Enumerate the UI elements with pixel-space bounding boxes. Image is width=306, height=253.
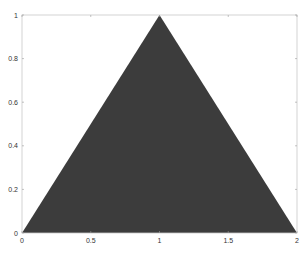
y-tick-label: 0.2 — [8, 186, 18, 193]
x-tick-label: 1.5 — [223, 237, 233, 244]
x-tick-label: 1 — [158, 237, 162, 244]
y-tick-label: 0.8 — [8, 55, 18, 62]
x-tick-label: 0.5 — [86, 237, 96, 244]
y-tick-label: 0.6 — [8, 99, 18, 106]
x-tick-label: 0 — [20, 237, 24, 244]
y-tick-label: 0 — [14, 230, 18, 237]
chart-canvas: 00.20.40.60.81 00.511.52 — [0, 0, 306, 253]
triangle-fill — [22, 15, 297, 233]
y-tick-label: 0.4 — [8, 142, 18, 149]
series-0-polygon — [22, 15, 297, 233]
y-tick-label: 1 — [14, 12, 18, 19]
x-tick-label: 2 — [295, 237, 299, 244]
